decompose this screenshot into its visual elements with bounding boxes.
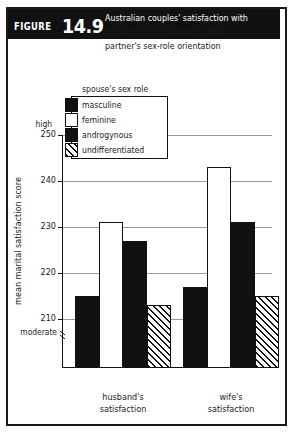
chart-plot-area: 250 240 230 220 210 high moderate mean m… (0, 0, 295, 434)
legend-label-feminine: feminine (82, 115, 116, 125)
bar-wife-undifferentiated (255, 296, 279, 368)
xaxis-group-label-wife-line2: satisfaction (181, 403, 281, 415)
ytick-label-250: 250 (41, 129, 56, 139)
bar-husband-undifferentiated (147, 305, 171, 368)
xaxis-group-label-wife-line1: wife's (181, 391, 281, 403)
ytick-label-220: 220 (41, 267, 56, 277)
legend-box: masculine feminine androgynous undiffere… (71, 96, 168, 159)
bar-wife-androgynous (231, 222, 255, 368)
legend-label-masculine: masculine (82, 100, 121, 110)
bar-wife-masculine (183, 287, 207, 368)
figure-root: FIGURE 14.9 Australian couples' satisfac… (0, 0, 295, 434)
legend-swatch-androgynous (65, 128, 78, 142)
yaxis-title: mean marital satisfaction score (13, 151, 23, 331)
bar-husband-feminine (99, 222, 123, 368)
ytick-label-210: 210 (41, 313, 56, 323)
xaxis-group-label-wife: wife's satisfaction (181, 391, 281, 415)
bar-husband-masculine (75, 296, 99, 368)
legend-item-androgynous: androgynous (65, 127, 132, 142)
bar-wife-feminine (207, 167, 231, 368)
yaxis-anchor-high: high (24, 119, 52, 129)
legend-swatch-masculine (65, 98, 78, 112)
legend-swatch-feminine (65, 113, 78, 127)
ytick-label-240: 240 (41, 175, 56, 185)
bar-husband-androgynous (123, 241, 147, 368)
legend-title: spouse's sex role (82, 84, 148, 94)
ytick-label-230: 230 (41, 221, 56, 231)
legend-label-androgynous: androgynous (82, 130, 132, 140)
xaxis-group-label-husband-line2: satisfaction (73, 403, 173, 415)
xaxis-group-label-husband-line1: husband's (73, 391, 173, 403)
xaxis-group-label-husband: husband's satisfaction (73, 391, 173, 415)
legend-item-feminine: feminine (65, 112, 116, 127)
legend-swatch-undifferentiated (65, 143, 78, 157)
legend-item-masculine: masculine (65, 97, 121, 112)
legend-item-undifferentiated: undifferentiated (65, 142, 144, 157)
legend-label-undifferentiated: undifferentiated (82, 145, 144, 155)
